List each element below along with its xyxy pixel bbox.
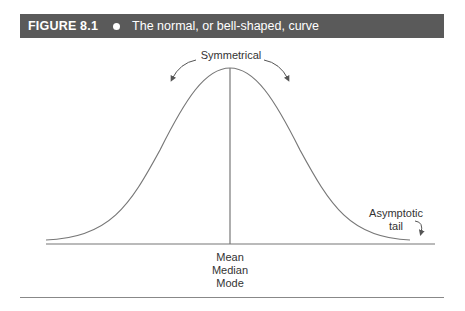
center-label: Mean Median Mode <box>200 251 260 290</box>
mean-label: Mean <box>200 251 260 264</box>
curved-arrow-left-icon <box>172 60 196 79</box>
tail-word-label: tail <box>366 220 426 233</box>
bottom-rule <box>20 297 444 298</box>
bell-curve <box>46 68 410 240</box>
median-label: Median <box>200 264 260 277</box>
symmetrical-label: Symmetrical <box>195 49 267 62</box>
curved-arrow-right-icon <box>264 60 288 79</box>
asymptotic-label: Asymptotic <box>366 207 426 220</box>
mode-label: Mode <box>200 277 260 290</box>
tail-label: Asymptotic tail <box>366 207 426 233</box>
